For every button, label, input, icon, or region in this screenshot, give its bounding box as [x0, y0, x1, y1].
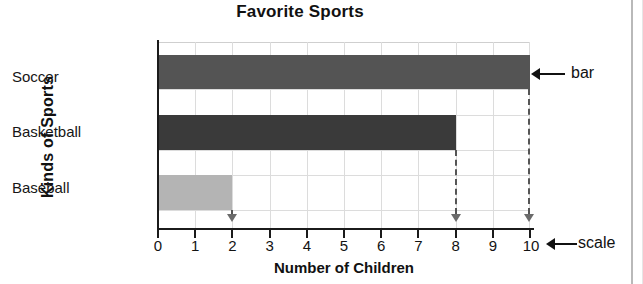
x-tick-label-6: 6 — [366, 237, 396, 254]
bar-baseball[interactable] — [158, 175, 232, 210]
bar-soccer[interactable] — [158, 55, 530, 89]
gridline-h-2 — [158, 89, 530, 90]
x-tick-label-8: 8 — [441, 237, 471, 254]
bar-annotation-arrowhead — [531, 68, 540, 80]
chart-page: Favorite Sports Kinds of Sports Soccer B… — [0, 0, 643, 284]
y-axis-line — [157, 40, 159, 230]
category-label-soccer: Soccer — [12, 68, 152, 85]
x-tick-label-10: 10 — [516, 237, 546, 254]
x-tick-label-4: 4 — [292, 237, 322, 254]
scale-annotation-arrowhead — [546, 238, 555, 250]
scale-annotation-line — [555, 243, 577, 245]
gridline-h-6 — [158, 210, 530, 211]
bar-annotation-label: bar — [571, 64, 594, 82]
x-axis-line — [157, 228, 534, 230]
gridline-h-4 — [158, 150, 530, 151]
category-label-baseball: Baseball — [12, 179, 152, 196]
plot-area — [158, 42, 530, 228]
x-tick-label-5: 5 — [329, 237, 359, 254]
x-tick-label-2: 2 — [217, 237, 247, 254]
bar-basketball[interactable] — [158, 115, 456, 150]
x-tick-label-1: 1 — [180, 237, 210, 254]
category-label-basketball: Basketball — [12, 123, 152, 140]
x-tick-label-0: 0 — [143, 237, 173, 254]
x-axis-title: Number of Children — [158, 259, 530, 276]
dropline-arrow-soccer — [524, 214, 534, 222]
bar-annotation-line — [540, 73, 565, 75]
dropline-soccer — [528, 89, 530, 214]
page-border-right — [631, 0, 633, 284]
scale-annotation-label: scale — [578, 234, 615, 252]
x-tick-label-7: 7 — [403, 237, 433, 254]
dropline-arrow-basketball — [451, 214, 461, 222]
dropline-basketball — [455, 150, 457, 214]
category-label-group: Soccer Basketball Baseball — [12, 0, 152, 284]
x-tick-label-3: 3 — [255, 237, 285, 254]
x-tick-label-9: 9 — [478, 237, 508, 254]
dropline-arrow-baseball — [227, 214, 237, 222]
